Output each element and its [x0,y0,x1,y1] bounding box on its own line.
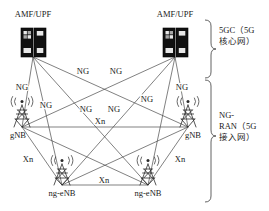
edge-label-xn-2: Xn [23,154,34,164]
node-label-gnb-left: gNB [10,130,26,140]
group-label-ngran: NG- RAN（5G 接入网） [219,110,267,143]
edge-label-ng-1: NG [16,82,28,92]
node-label-ngenb-left: ng-eNB [49,188,76,198]
node-gnb-left[interactable]: gNB [10,97,33,141]
cell-tower-icon [11,97,33,128]
diagram-canvas: AMF/UPF AMF/UPF [0,0,269,211]
node-label-ngenb-right: ng-eNB [135,188,162,198]
edge-label-xn-4: Xn [175,154,186,164]
edge-ng-amfl-ngenbr [33,57,148,185]
node-ngenb-right[interactable]: ng-eNB [135,156,162,199]
node-label-gnb-right: gNB [185,130,201,140]
node-amf-left[interactable]: AMF/UPF [15,9,52,57]
node-label-amf-left: AMF/UPF [15,9,52,19]
edge-ng-amfr-ngenbl [62,57,175,185]
edge-label-ng-7: NG [80,104,92,114]
edge-label-ng-2: NG [77,66,89,76]
edge-label-layer: NG NG NG NG NG NG NG NG Xn Xn Xn Xn [16,66,188,185]
edge-xn-gnbl-ngenbr [22,127,148,185]
edge-label-ng-3: NG [110,66,122,76]
group-label-5gc: 5GC（5G 核心网） [219,25,267,47]
edge-label-ng-4: NG [176,82,188,92]
edge-label-ng-6: NG [141,94,153,104]
brace-5gc [205,20,216,78]
edge-label-ng-5: NG [40,100,52,110]
brace-ngran [205,80,216,202]
edge-label-xn-1: Xn [95,116,106,126]
node-amf-right[interactable]: AMF/UPF [157,9,194,57]
cell-tower-icon [137,156,159,186]
node-gnb-right[interactable]: gNB [177,97,201,141]
server-rack-icon [163,28,188,57]
edge-label-ng-8: NG [108,104,120,114]
edge-ng-amfl-ngenbl [33,57,62,185]
server-rack-icon [21,28,46,57]
node-label-amf-right: AMF/UPF [157,9,194,19]
edge-xn-gnbr-ngenbl [62,127,188,185]
cell-tower-icon [177,97,199,128]
brace-layer [205,20,216,202]
edge-label-xn-3: Xn [99,175,110,185]
cell-tower-icon [51,156,73,186]
node-ngenb-left[interactable]: ng-eNB [49,156,76,199]
